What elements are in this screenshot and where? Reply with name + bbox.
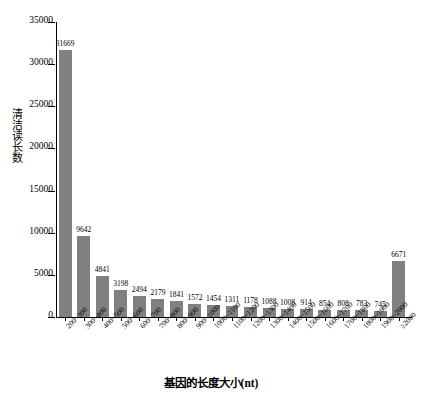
bar-slot: 1088 — [263, 22, 276, 317]
bar-slot: 914 — [300, 22, 313, 317]
y-tick-label: 20000 — [29, 141, 53, 151]
x-tick-mark — [325, 317, 326, 321]
bar-slot: 745 — [374, 22, 387, 317]
bar-value-label: 6671 — [391, 250, 406, 259]
bar-slot: 6671 — [392, 22, 405, 317]
bar-slot: 854 — [318, 22, 331, 317]
bar-slot: 808 — [337, 22, 350, 317]
x-tick-mark — [362, 317, 363, 321]
y-axis-title: 清洁读长数 — [7, 108, 23, 163]
bar-value-label: 9642 — [76, 225, 91, 234]
y-tick-label: 0 — [48, 310, 53, 320]
bar-value-label: 4841 — [95, 265, 110, 274]
bar-slot: 31669 — [59, 22, 72, 317]
y-tick-label: 35000 — [29, 15, 53, 25]
bar-slot: 1572 — [188, 22, 201, 317]
x-tick-mark — [251, 317, 252, 321]
bar-slot: 9642 — [77, 22, 90, 317]
x-tick-mark — [288, 317, 289, 321]
bar-slot: 3198 — [114, 22, 127, 317]
bar-value-label: 31669 — [56, 39, 75, 48]
bar-value-label: 1841 — [169, 290, 184, 299]
bar: 31669 — [59, 50, 72, 317]
y-tick-label: 15000 — [29, 184, 53, 194]
y-axis-line — [56, 22, 57, 317]
bar-slot: 1454 — [207, 22, 220, 317]
bar-value-label: 3198 — [113, 279, 128, 288]
y-tick-label: 25000 — [29, 99, 53, 109]
bar-slot: 1008 — [281, 22, 294, 317]
bar-chart-figure: 清洁读长数 0500010000150002000025000300003500… — [0, 0, 422, 402]
y-tick-label: 10000 — [29, 226, 53, 236]
y-tick-label: 5000 — [34, 268, 53, 278]
bar-slot: 2179 — [151, 22, 164, 317]
bar-slot: 1178 — [244, 22, 257, 317]
bar-slot: 2494 — [133, 22, 146, 317]
bar-slot: 1311 — [226, 22, 239, 317]
bar-value-label: 1572 — [187, 293, 202, 302]
plot-area: 05000100001500020000250003000035000 3166… — [56, 22, 408, 317]
x-tick-mark — [399, 317, 400, 321]
bar-value-label: 2179 — [150, 288, 165, 297]
bar-slot: 783 — [355, 22, 368, 317]
x-axis-title: 基因的长度大小(nt) — [0, 374, 422, 390]
bar-value-label: 2494 — [132, 285, 147, 294]
bar-slot: 4841 — [96, 22, 109, 317]
y-tick-label: 30000 — [29, 57, 53, 67]
bar-value-label: 1454 — [206, 294, 221, 303]
bar-slot: 1841 — [170, 22, 183, 317]
